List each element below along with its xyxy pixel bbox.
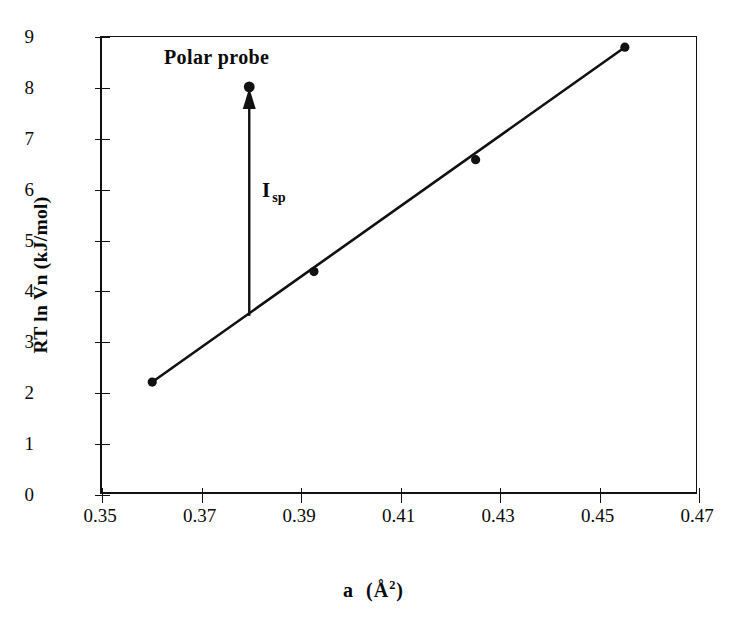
x-axis-title-text: a [343,579,354,601]
x-axis-title: a (Å2) [0,578,747,602]
data-point-marker [309,267,318,276]
isp-label: Isp [262,178,284,203]
polar-probe-point [244,81,255,92]
data-point-marker [471,155,480,164]
angstrom-exponent: 2 [389,578,396,592]
angstrom-symbol: Å [374,579,389,601]
data-point-marker [148,377,157,386]
chart-figure: RT ln Vn (kJ/mol) 0123456789 0.350.370.3… [0,0,747,639]
regression-line [152,47,625,382]
isp-label-subscript: sp [272,189,286,205]
data-point-marker [620,43,629,52]
data-layer [0,0,747,639]
polar-probe-label: Polar probe [164,46,269,69]
isp-label-main: I [262,178,270,202]
